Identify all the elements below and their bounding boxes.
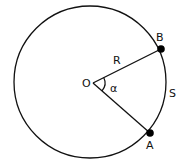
- label-r: R: [113, 54, 121, 67]
- label-a: A: [146, 139, 154, 152]
- point-b: [157, 45, 165, 53]
- label-s: S: [169, 87, 176, 100]
- label-b: B: [156, 31, 164, 44]
- point-a: [146, 129, 154, 137]
- angle-arc: [102, 78, 105, 91]
- label-o: O: [82, 77, 91, 90]
- label-alpha: α: [110, 82, 117, 95]
- circle-sector-diagram: O R α S B A: [0, 0, 183, 164]
- radius-oa: [93, 83, 150, 133]
